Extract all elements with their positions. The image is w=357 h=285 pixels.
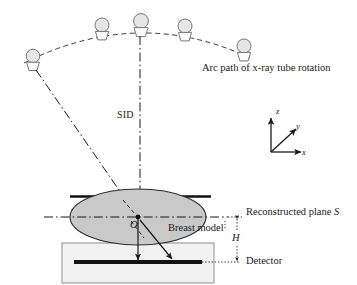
arc-path-label: Arc path of x-ray tube rotation: [202, 62, 331, 73]
arc-path-curve: [24, 33, 252, 63]
z-axis-label: z: [276, 107, 279, 116]
xray-tube-4: [178, 19, 192, 41]
xray-tube-1: [26, 49, 40, 70]
reconstructed-plane-text: Reconstructed plane: [246, 206, 334, 217]
sid-label: SID: [117, 110, 134, 121]
xray-tube-2: [95, 18, 109, 40]
x-axis-label: x: [302, 148, 306, 157]
y-axis-label: y: [296, 122, 300, 131]
reconstructed-plane-label: Reconstructed plane S: [246, 206, 339, 217]
reconstructed-plane-symbol: S: [334, 206, 339, 217]
breast-model-label: Breast model: [168, 222, 224, 233]
xray-tube-5: [237, 39, 251, 61]
diagram-canvas: [0, 0, 357, 285]
xray-tube-3: [134, 14, 149, 37]
origin-label: O: [130, 219, 138, 230]
tomosynthesis-diagram: Arc path of x-ray tube rotation SID Reco…: [0, 0, 357, 285]
y-axis: [271, 129, 296, 152]
height-label: H: [232, 232, 240, 243]
detector-label: Detector: [246, 255, 282, 266]
